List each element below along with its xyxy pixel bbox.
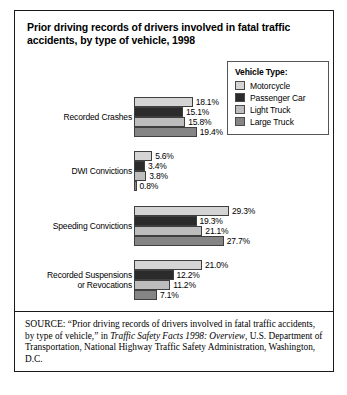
bar-value-label: 21.0% bbox=[205, 260, 228, 270]
bar bbox=[134, 236, 224, 246]
bar-value-label: 7.1% bbox=[160, 290, 179, 300]
bar-row: 11.2% bbox=[134, 280, 335, 290]
bar-row: 27.7% bbox=[134, 236, 335, 246]
category-label-line: or Revocations bbox=[0, 280, 132, 290]
bar bbox=[134, 290, 157, 300]
source-divider bbox=[15, 311, 333, 312]
bar bbox=[134, 181, 137, 191]
bar bbox=[134, 161, 145, 171]
bar bbox=[134, 127, 197, 137]
bar-row: 7.1% bbox=[134, 290, 335, 300]
source-publication-title: Traffic Safety Facts 1998: Overview bbox=[110, 331, 245, 341]
figure-frame: Prior driving records of drivers involve… bbox=[14, 10, 334, 372]
bar bbox=[134, 97, 193, 107]
bar bbox=[134, 171, 146, 181]
bar-row: 19.3% bbox=[134, 216, 335, 226]
bar-value-label: 19.3% bbox=[200, 216, 223, 226]
bar-row: 18.1% bbox=[134, 97, 335, 107]
bar-value-label: 15.8% bbox=[188, 117, 211, 127]
source-prefix: SOURCE: bbox=[25, 318, 66, 329]
category-label-line: Recorded Crashes bbox=[0, 112, 132, 122]
bar bbox=[134, 117, 185, 127]
bar bbox=[134, 206, 229, 216]
bar-value-label: 18.1% bbox=[196, 97, 219, 107]
bar-row: 0.8% bbox=[134, 181, 335, 191]
source-note: SOURCE: “Prior driving records of driver… bbox=[25, 318, 325, 365]
bar-value-label: 15.1% bbox=[186, 107, 209, 117]
bar-value-label: 3.4% bbox=[148, 161, 167, 171]
bar-row: 19.4% bbox=[134, 127, 335, 137]
bar bbox=[134, 216, 197, 226]
bar-row: 15.1% bbox=[134, 107, 335, 117]
category-label: Recorded Suspensionsor Revocations bbox=[0, 270, 132, 290]
bar bbox=[134, 226, 202, 236]
bar-value-label: 11.2% bbox=[173, 280, 195, 290]
category-label: Recorded Crashes bbox=[0, 112, 132, 122]
bar-row: 21.0% bbox=[134, 260, 335, 270]
bar-value-label: 29.3% bbox=[232, 206, 255, 216]
bar-row: 21.1% bbox=[134, 226, 335, 236]
bar-value-label: 19.4% bbox=[200, 127, 223, 137]
bar-value-label: 21.1% bbox=[205, 226, 228, 236]
bar bbox=[134, 270, 174, 280]
bar-row: 5.6% bbox=[134, 151, 335, 161]
bar-row: 3.8% bbox=[134, 171, 335, 181]
category-label-line: Recorded Suspensions bbox=[0, 270, 132, 280]
bar-row: 3.4% bbox=[134, 161, 335, 171]
bar-value-label: 5.6% bbox=[155, 151, 174, 161]
bar-value-label: 12.2% bbox=[177, 270, 200, 280]
bar-value-label: 0.8% bbox=[140, 181, 159, 191]
bar bbox=[134, 151, 152, 161]
bar bbox=[134, 280, 170, 290]
bar bbox=[134, 260, 202, 270]
bar-row: 12.2% bbox=[134, 270, 335, 280]
bar-row: 15.8% bbox=[134, 117, 335, 127]
bar-row: 29.3% bbox=[134, 206, 335, 216]
bar-value-label: 3.8% bbox=[149, 171, 168, 181]
bar-value-label: 27.7% bbox=[227, 236, 250, 246]
category-label: DWI Convictions bbox=[0, 166, 132, 176]
category-label: Speeding Convictions bbox=[0, 221, 132, 231]
category-label-line: DWI Convictions bbox=[0, 166, 132, 176]
bar bbox=[134, 107, 183, 117]
category-label-line: Speeding Convictions bbox=[0, 221, 132, 231]
